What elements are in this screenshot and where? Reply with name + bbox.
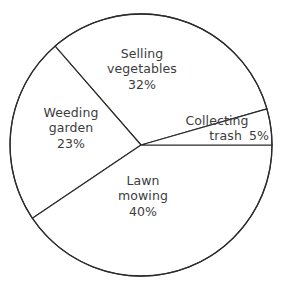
pie-label-line-2: vegetables <box>96 61 188 76</box>
pie-label-line-1: Selling <box>96 46 188 61</box>
pie-label-weeding-garden: Weeding garden 23% <box>25 105 117 151</box>
pie-label-value: 32% <box>96 77 188 92</box>
pie-label-line-2-wrap: trash5% <box>163 128 271 143</box>
pie-label-line-1: Collecting <box>163 113 271 128</box>
pie-label-collecting-trash: Collecting trash5% <box>163 113 271 144</box>
pie-label-value: 5% <box>242 128 269 143</box>
pie-label-line-2: mowing <box>97 188 189 203</box>
pie-label-value: 40% <box>97 204 189 219</box>
pie-chart: Selling vegetables 32% Weeding garden 23… <box>0 0 282 291</box>
pie-label-line-1: Lawn <box>97 173 189 188</box>
pie-label-line-1: Weeding <box>25 105 117 120</box>
pie-label-lawn-mowing: Lawn mowing 40% <box>97 173 189 219</box>
pie-label-line-2: garden <box>25 120 117 135</box>
pie-label-value: 23% <box>25 136 117 151</box>
pie-label-selling-vegetables: Selling vegetables 32% <box>96 46 188 92</box>
pie-label-line-2: trash <box>209 128 242 143</box>
